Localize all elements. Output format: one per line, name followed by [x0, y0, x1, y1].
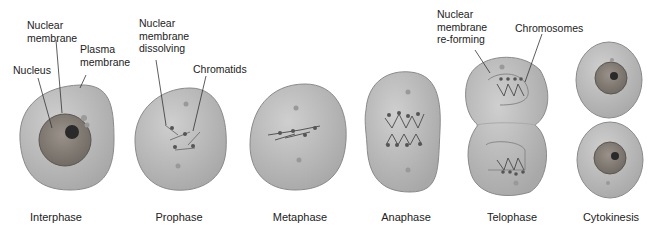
- label-nuclear-membrane: Nuclear membrane: [27, 19, 77, 44]
- stage-anaphase: Anaphase: [356, 211, 456, 223]
- telophase-cell: [466, 57, 548, 195]
- metaphase-cell: [250, 84, 346, 190]
- label-plasma-membrane: Plasma membrane: [80, 43, 130, 68]
- label-chromatids: Chromatids: [193, 63, 247, 76]
- stage-metaphase: Metaphase: [250, 211, 350, 223]
- mitosis-diagram: [0, 0, 661, 232]
- stage-interphase: Interphase: [6, 211, 106, 223]
- label-nuclear-membrane-dissolving: Nuclear membrane dissolving: [139, 17, 189, 55]
- interphase-cell: [20, 85, 114, 190]
- stage-telophase: Telophase: [462, 211, 562, 223]
- label-nucleus: Nucleus: [13, 64, 51, 77]
- anaphase-cell: [365, 72, 440, 192]
- label-chromosomes: Chromosomes: [515, 22, 583, 35]
- prophase-cell: [135, 88, 226, 190]
- stage-cytokinesis: Cytokinesis: [561, 211, 661, 223]
- label-nuclear-membrane-reforming: Nuclear membrane re-forming: [437, 8, 487, 46]
- cytokinesis-cells: [576, 42, 643, 198]
- stage-prophase: Prophase: [129, 211, 229, 223]
